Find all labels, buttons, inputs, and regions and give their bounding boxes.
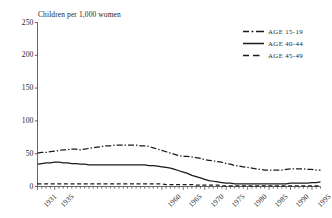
y-tick-label: 200 <box>6 50 34 59</box>
legend-item: AGE 40-44 <box>243 38 325 49</box>
y-tick-label: 250 <box>6 18 34 27</box>
legend-label-age-15-19: AGE 15-19 <box>268 28 303 35</box>
legend-item: AGE 45-49 <box>243 50 325 61</box>
y-tick-label: 150 <box>6 83 34 92</box>
legend-swatch-dash-dot <box>243 27 264 36</box>
chart-legend: AGE 15-19 AGE 40-44 AGE 45-49 <box>243 26 325 62</box>
series-line-age-15-19 <box>38 145 321 170</box>
legend-swatch-dashed <box>243 51 264 60</box>
legend-label-age-40-44: AGE 40-44 <box>268 40 303 47</box>
legend-item: AGE 15-19 <box>243 26 325 37</box>
y-tick-label: 50 <box>6 149 34 158</box>
legend-swatch-solid <box>243 39 264 48</box>
series-line-age-40-44 <box>38 162 321 184</box>
legend-label-age-45-49: AGE 45-49 <box>268 52 303 59</box>
y-tick-label: 100 <box>6 116 34 125</box>
y-tick-label: 0 <box>6 182 34 191</box>
